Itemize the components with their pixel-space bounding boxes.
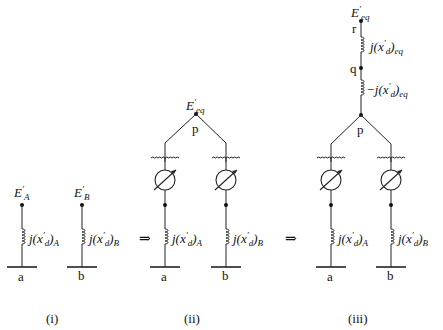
bus-label-b: b [387, 269, 394, 282]
caption-i: (i) [46, 312, 58, 325]
inductor-icon [361, 80, 364, 95]
caption-ii: (ii) [184, 312, 200, 325]
bus-label-a: a [161, 270, 167, 283]
bus-label-a: a [18, 270, 24, 283]
source-label-a: E′A [14, 185, 29, 202]
node-label-q: q [350, 62, 357, 75]
reactance-label-b: j(x′d)B [89, 231, 119, 248]
inductor-icon [361, 37, 364, 52]
phase-shifter-icon [154, 170, 176, 190]
phase-shifter-icon [380, 170, 402, 190]
phase-shifter-icon [215, 170, 237, 190]
reactance-label-b: j(x′d)B [233, 231, 263, 248]
source-label-eq: E′eq [186, 98, 204, 115]
bus-label-a: a [327, 270, 333, 283]
inductor-icon [331, 229, 334, 244]
caption-iii: (iii) [348, 312, 368, 325]
inductor-icon [82, 229, 85, 244]
bus-label-b: b [222, 269, 229, 282]
reactance-label-b: j(x′d)B [398, 231, 428, 248]
source-label-b: E′B [74, 185, 89, 202]
inductor-icon [391, 229, 394, 244]
reactance-label-a: j(x′d)A [29, 231, 59, 248]
node-label-r: r [352, 22, 356, 35]
node-label-p: p [357, 123, 364, 136]
panel-iii [316, 19, 406, 267]
source-label-eq: E′eq [351, 5, 369, 22]
reactance-label-a: j(x′d)A [338, 231, 368, 248]
bus-label-b: b [78, 269, 85, 282]
arrow-implies-icon: ⇒ [285, 232, 297, 246]
inductor-icon [22, 229, 25, 244]
inductor-icon [226, 229, 229, 244]
arrow-implies-icon: ⇒ [139, 232, 151, 246]
phase-shifter-icon [320, 170, 342, 190]
series-reactance-label: j(x′d)eq [370, 39, 403, 56]
node-label-p: p [192, 122, 199, 135]
node-q-dot [359, 66, 363, 70]
reactance-label-a: j(x′d)A [172, 231, 202, 248]
negative-reactance-label: −j(x′d)eq [366, 82, 408, 99]
inductor-icon [165, 229, 168, 244]
